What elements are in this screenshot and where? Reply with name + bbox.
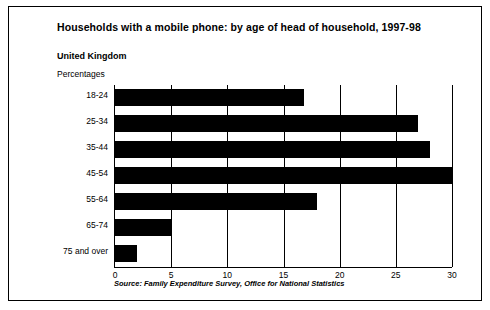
chart-subtitle: United Kingdom [57, 51, 127, 61]
bar-row: 65-74 [115, 215, 452, 241]
bar-row: 45-54 [115, 163, 452, 189]
plot-area: 18-2425-3435-4445-5455-6465-7475 and ove… [114, 85, 452, 268]
chart-figure: Households with a mobile phone: by age o… [8, 6, 482, 301]
bar [115, 89, 304, 106]
gridline [452, 85, 453, 267]
x-tick-label: 25 [391, 270, 400, 280]
bar [115, 141, 430, 158]
category-label: 18-24 [86, 90, 108, 100]
bar [115, 219, 171, 236]
category-label: 35-44 [86, 142, 108, 152]
category-label: 45-54 [86, 168, 108, 178]
bar [115, 115, 418, 132]
bar-row: 18-24 [115, 85, 452, 111]
category-label: 25-34 [86, 116, 108, 126]
bar [115, 193, 317, 210]
category-label: 55-64 [86, 194, 108, 204]
chart-source: Source: Family Expenditure Survey, Offic… [114, 279, 344, 288]
chart-title: Households with a mobile phone: by age o… [57, 21, 421, 33]
bar [115, 167, 452, 184]
bar-row: 35-44 [115, 137, 452, 163]
x-tick-label: 30 [447, 270, 456, 280]
category-label: 75 and over [63, 246, 108, 256]
bar [115, 245, 137, 262]
bar-row: 75 and over [115, 241, 452, 267]
bar-row: 55-64 [115, 189, 452, 215]
category-label: 65-74 [86, 220, 108, 230]
chart-unit-label: Percentages [57, 69, 105, 79]
bar-row: 25-34 [115, 111, 452, 137]
